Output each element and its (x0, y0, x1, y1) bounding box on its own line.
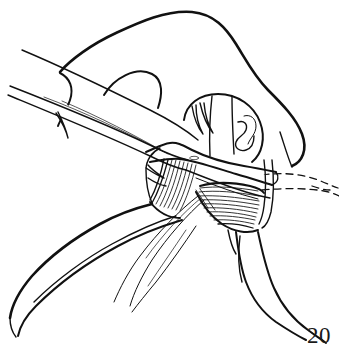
figure-panel: 20 (0, 0, 339, 349)
figure-number: 20 (307, 324, 331, 347)
hatched-tissue-fibers (114, 183, 264, 306)
figure-illustration (0, 0, 339, 349)
lower-anatomy-outline (10, 204, 326, 343)
